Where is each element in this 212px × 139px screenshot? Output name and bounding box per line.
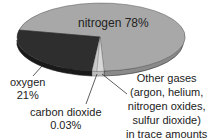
label-oxygen: oxygen 21%: [10, 76, 45, 102]
label-co2-value: 0.03%: [30, 119, 102, 132]
label-carbon-dioxide: carbon dioxide 0.03%: [30, 106, 102, 132]
pie-slice-oxygen: [17, 30, 100, 71]
label-other-line3: nitrogen oxides,: [126, 99, 207, 113]
leader-line-co2: [86, 74, 97, 104]
leader-line-other: [102, 74, 127, 94]
leader-line-oxygen: [33, 66, 42, 76]
label-other-line1: Other gases: [126, 71, 207, 85]
label-other-line4: sulfur dioxide): [126, 113, 207, 127]
label-nitrogen: nitrogen 78%: [78, 17, 149, 30]
label-other-line2: (argon, helium,: [126, 85, 207, 99]
pie-rim-trace: [92, 71, 104, 76]
label-oxygen-value: 21%: [10, 89, 45, 102]
label-oxygen-name: oxygen: [10, 76, 45, 89]
label-co2-name: carbon dioxide: [30, 106, 102, 119]
label-other-gases: Other gases (argon, helium, nitrogen oxi…: [126, 71, 207, 139]
label-other-line5: in trace amounts: [126, 127, 207, 139]
